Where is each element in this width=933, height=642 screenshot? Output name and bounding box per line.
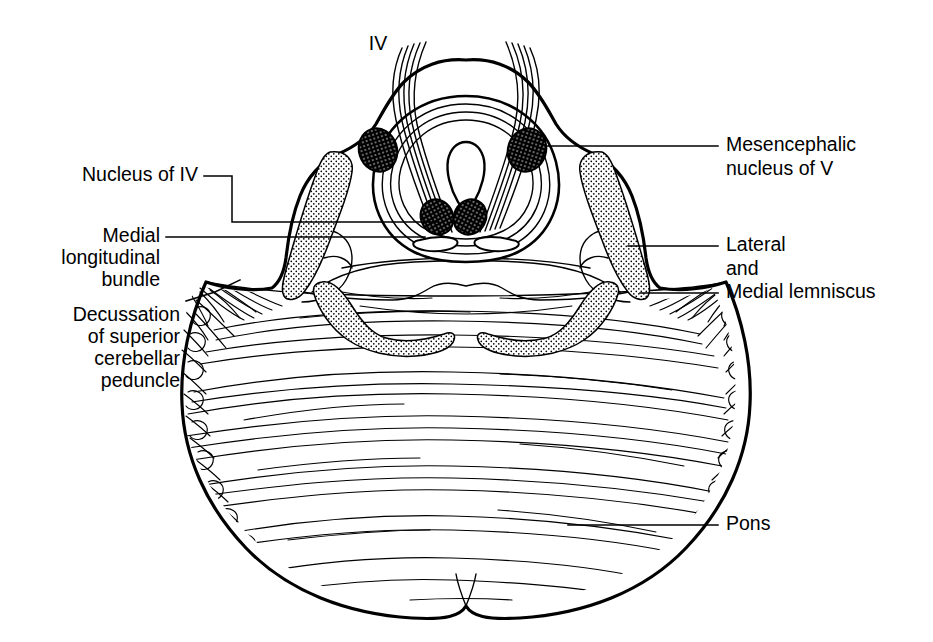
label-nerve-iv: IV: [369, 32, 387, 54]
anatomical-figure: IV Nucleus of IV Medial longitudinal bun…: [0, 0, 933, 642]
label-decussation-line3: cerebellar: [94, 347, 180, 369]
label-mlf-line1: Medial: [103, 224, 160, 246]
label-lemniscus-line2: and: [726, 257, 759, 279]
label-decussation-line1: Decussation: [73, 303, 180, 325]
label-lemniscus-line3: Medial lemniscus: [726, 280, 876, 302]
label-nucleus-of-iv: Nucleus of IV: [82, 163, 198, 185]
label-mesencephalic-line2: nucleus of V: [726, 157, 833, 179]
label-lemniscus-line1: Lateral: [726, 233, 786, 255]
label-decussation-line2: of superior: [88, 325, 181, 347]
brainstem-section-drawing: IV Nucleus of IV Medial longitudinal bun…: [0, 0, 933, 642]
label-mesencephalic-line1: Mesencephalic: [726, 133, 856, 155]
label-pons: Pons: [726, 512, 771, 534]
label-mlf-line3: bundle: [101, 268, 160, 290]
label-decussation-line4: peduncle: [101, 369, 180, 391]
label-mlf-line2: longitudinal: [61, 246, 160, 268]
medial-longitudinal-bundle-right: [474, 237, 518, 251]
medial-longitudinal-bundle-left: [413, 237, 457, 251]
